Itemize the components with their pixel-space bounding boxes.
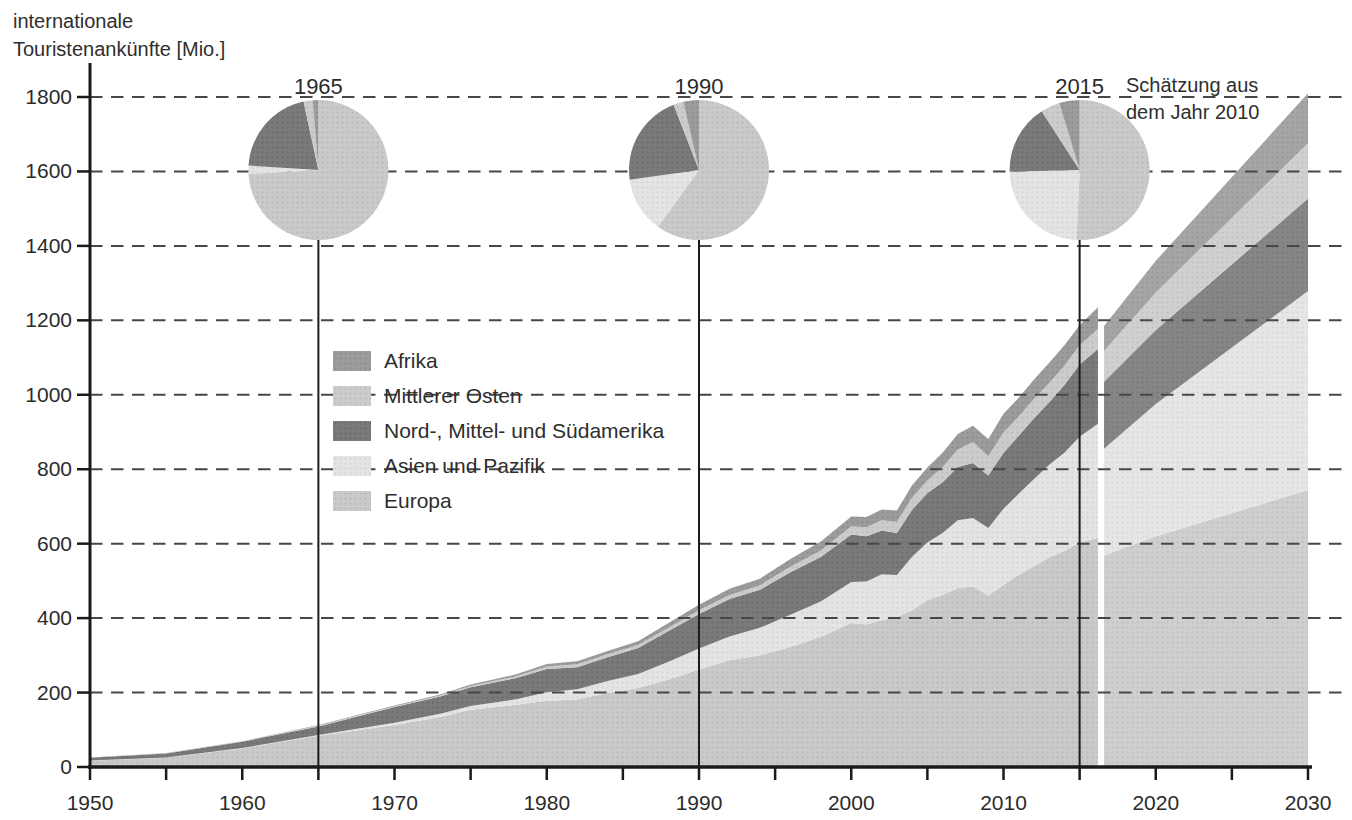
pie-charts: 196519902015: [248, 74, 1149, 240]
pie-slice-asien: [1010, 170, 1080, 240]
legend-swatch-mittlerer_osten: [333, 386, 371, 406]
legend-label: Nord-, Mittel- und Südamerika: [384, 419, 664, 443]
y-tick-label: 1000: [25, 383, 72, 406]
y-tick-label: 600: [37, 532, 72, 555]
tourism-arrivals-chart: 1965199020150200400600800100012001400160…: [0, 0, 1352, 820]
estimate-annotation-line2: dem Jahr 2010: [1126, 99, 1259, 126]
y-axis-title-line2: Touristenankünfte [Mio.]: [13, 35, 225, 63]
legend-item-europa: Europa: [333, 490, 664, 511]
y-tick-label: 800: [37, 457, 72, 480]
legend-item-afrika: Afrika: [333, 350, 664, 371]
y-tick-label: 1400: [25, 234, 72, 257]
x-tick-label: 1960: [219, 791, 266, 814]
estimate-annotation: Schätzung aus dem Jahr 2010: [1126, 72, 1259, 126]
legend-label: Europa: [384, 489, 452, 513]
legend-swatch-afrika: [333, 351, 371, 371]
legend-label: Mittlerer Osten: [384, 384, 522, 408]
x-tick-label: 2000: [828, 791, 875, 814]
legend-label: Asien und Pazifik: [384, 454, 545, 478]
pie-year-label: 1965: [294, 74, 343, 99]
y-tick-label: 1800: [25, 85, 72, 108]
x-tick-label: 1990: [676, 791, 723, 814]
estimate-annotation-line1: Schätzung aus: [1126, 72, 1259, 99]
pie-1965: [248, 100, 388, 240]
x-tick-label: 2020: [1132, 791, 1179, 814]
y-tick-label: 200: [37, 681, 72, 704]
y-tick-label: 400: [37, 606, 72, 629]
pie-year-label: 1990: [675, 74, 724, 99]
legend-swatch-asien: [333, 456, 371, 476]
legend-item-amerika: Nord-, Mittel- und Südamerika: [333, 420, 664, 441]
y-axis-title-line1: internationale: [13, 7, 225, 35]
x-tick-label: 1970: [371, 791, 418, 814]
x-tick-label: 1950: [67, 791, 114, 814]
x-tick-label: 1980: [523, 791, 570, 814]
legend-item-asien: Asien und Pazifik: [333, 455, 664, 476]
x-tick-label: 2010: [980, 791, 1027, 814]
x-tick-label: 2030: [1285, 791, 1332, 814]
pie-year-label: 2015: [1055, 74, 1104, 99]
legend: AfrikaMittlerer OstenNord-, Mittel- und …: [333, 350, 664, 525]
legend-item-mittlerer_osten: Mittlerer Osten: [333, 385, 664, 406]
y-tick-label: 0: [60, 755, 72, 778]
pie-1990: [629, 100, 769, 240]
legend-swatch-amerika: [333, 421, 371, 441]
y-tick-label: 1200: [25, 308, 72, 331]
legend-swatch-europa: [333, 491, 371, 511]
legend-label: Afrika: [384, 349, 438, 373]
y-tick-label: 1600: [25, 159, 72, 182]
y-axis-title: internationale Touristenankünfte [Mio.]: [13, 7, 225, 63]
